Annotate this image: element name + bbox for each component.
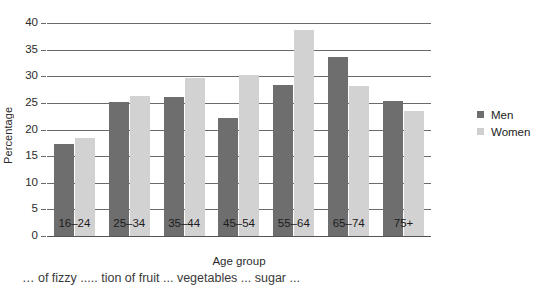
y-tick-label: 20 [25,124,38,136]
bar-women [185,78,205,236]
bar-men [328,57,348,236]
x-axis-category-label: 35–44 [168,217,200,229]
legend-item-women[interactable]: Women [477,123,543,140]
figure-caption: … of fizzy ..... tion of fruit ... veget… [22,271,546,285]
y-tick-label: 40 [25,17,38,29]
y-tick-label: 30 [25,71,38,83]
x-axis-category-label: 55–64 [278,217,310,229]
legend-swatch-icon [477,111,484,118]
y-tick-label: 0 [32,230,38,242]
legend-label: Women [491,126,530,138]
bar-men [164,97,184,237]
y-tick-mark [41,236,46,237]
bar-men [273,85,293,236]
x-axis-title: Age group [47,255,431,267]
bar-group [102,23,157,236]
bar-group [47,23,102,236]
y-tick-mark [41,76,46,77]
y-axis-title: Percentage [2,85,18,185]
bar-women [239,75,259,236]
bar-women [130,96,150,236]
gridline [47,236,431,237]
y-tick-label: 35 [25,44,38,56]
legend-label: Men [491,109,513,121]
legend-item-men[interactable]: Men [477,106,543,123]
plot-area: 0510152025303540 [47,23,431,236]
bar-women [349,86,369,236]
legend-swatch-icon [477,128,484,135]
bar-group [157,23,212,236]
legend: MenWomen [477,106,543,140]
y-tick-mark [41,156,46,157]
bar-group [321,23,376,236]
y-tick-mark [41,103,46,104]
bar-group [266,23,321,236]
bar-men [109,102,129,236]
y-tick-label: 10 [25,177,38,189]
x-axis-category-label: 75+ [394,217,414,229]
bar-women [294,30,314,236]
x-axis-category-label: 25–34 [113,217,145,229]
bars-layer [47,23,431,236]
y-tick-mark [41,23,46,24]
bar-men [383,101,403,236]
bar-group [376,23,431,236]
y-tick-mark [41,50,46,51]
x-axis-category-label: 65–74 [333,217,365,229]
y-tick-mark [41,130,46,131]
y-tick-label: 15 [25,150,38,162]
bar-group [212,23,267,236]
x-axis-category-label: 45–54 [223,217,255,229]
y-tick-mark [41,183,46,184]
y-tick-mark [41,209,46,210]
y-tick-label: 5 [32,204,38,216]
y-tick-label: 25 [25,97,38,109]
x-axis-category-label: 16–24 [58,217,90,229]
